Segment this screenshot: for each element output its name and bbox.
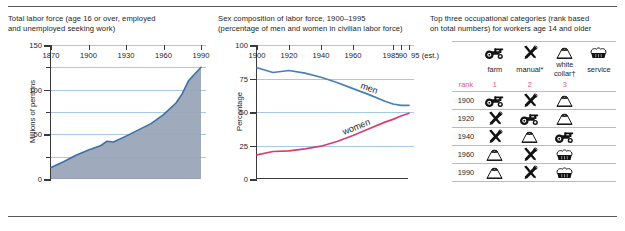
- header-label-manual: manual*: [512, 60, 548, 79]
- cell-1940-rank1: [478, 128, 512, 146]
- row-year-1920: 1920: [452, 110, 478, 128]
- chart-total-labor-force: 150 100 50 0 1870 1900 1930 1: [8, 39, 213, 204]
- blouse-icon: [555, 112, 574, 126]
- header-corner-cell: [452, 42, 478, 61]
- ytick-50: [250, 112, 257, 113]
- panel-title-line1: Top three occupational categories (rank …: [430, 14, 589, 23]
- plot-area-1: 150 100 50 0 1870 1900 1930 1: [50, 45, 200, 179]
- table-row: 1990: [452, 164, 616, 182]
- panel-title-line2: and unemployed seeking work): [8, 24, 115, 33]
- cell-1960-rank2: [512, 146, 548, 164]
- cell-1990-rank3: [548, 164, 582, 182]
- header-label-service: service: [582, 60, 616, 79]
- panel-title-line1: Sex composition of labor force, 1900–199…: [218, 14, 366, 23]
- table-row: 1900: [452, 92, 616, 110]
- cell-1990-empty: [582, 164, 616, 182]
- ylabel-0: 0: [244, 175, 248, 184]
- xtick-1930: [126, 45, 127, 50]
- chef-hat-icon: [555, 167, 574, 179]
- hammer-wrench-icon: [522, 93, 538, 108]
- cell-1960-rank3: [548, 146, 582, 164]
- xlabel-1990: 1990: [193, 51, 210, 60]
- ylabel-0: 0: [38, 175, 42, 184]
- cell-1920-rank2: [512, 110, 548, 128]
- cell-1940-empty: [582, 128, 616, 146]
- blouse-icon: [485, 166, 504, 180]
- blouse-icon: [485, 148, 504, 162]
- xlabel-1900: 1900: [249, 51, 266, 60]
- blouse-icon: [555, 46, 574, 60]
- xtick-1990: [401, 45, 402, 50]
- cell-1960-empty: [582, 146, 616, 164]
- chef-hat-icon: [555, 149, 574, 161]
- xtick-1900: [89, 45, 90, 50]
- tractor-icon: [483, 94, 506, 108]
- header-label-farm: farm: [478, 60, 512, 79]
- chef-hat-icon: [589, 47, 608, 59]
- bottom-rule-cell-4: [582, 182, 616, 183]
- bottom-rule-cell-0: [452, 182, 478, 183]
- ytick-0: [250, 179, 257, 180]
- xtick-1990: [201, 45, 202, 50]
- header-icon-manual: [512, 42, 548, 61]
- table-header-label-row: farm manual* white collar† service: [452, 60, 616, 79]
- panel-title-line1: Total labor force (age 16 or over, emplo…: [8, 14, 156, 23]
- panel-title-total-labor-force: Total labor force (age 16 or over, emplo…: [8, 14, 213, 33]
- series-label-men: men: [359, 81, 379, 96]
- header-icon-white-collar: [548, 42, 582, 61]
- xtick-1940: [321, 45, 322, 50]
- hammer-wrench-icon: [522, 165, 538, 180]
- bottom-rule: [8, 216, 617, 217]
- header-label-corner: [452, 60, 478, 79]
- xlabel-1960: 1960: [345, 51, 362, 60]
- cell-1940-rank3: [548, 128, 582, 146]
- occupational-categories-table: farm manual* white collar† service rank …: [452, 41, 616, 182]
- table-rank-row: rank 1 2 3: [452, 79, 616, 92]
- panel-total-labor-force: Total labor force (age 16 or over, emplo…: [8, 14, 213, 209]
- xlabel-1985: 1985: [383, 51, 400, 60]
- series-total-labor-force: [51, 45, 201, 179]
- cell-1990-rank2: [512, 164, 548, 182]
- bottom-rule-cell-2: [512, 182, 548, 183]
- table-row: 1920: [452, 110, 616, 128]
- top-rule: [8, 6, 617, 7]
- rank-value-2: 2: [512, 79, 548, 92]
- plot-area-2: 100 75 50 25 0 men women: [256, 45, 408, 179]
- hammer-wrench-icon: [522, 45, 538, 60]
- header-icon-farm: [478, 42, 512, 61]
- ytick-100: [250, 45, 257, 46]
- row-year-1960: 1960: [452, 146, 478, 164]
- panel-title-sex-composition: Sex composition of labor force, 1900–199…: [218, 14, 423, 33]
- xtick-1920: [289, 45, 290, 50]
- ylabel-150: 150: [29, 41, 42, 50]
- ytick-25: [250, 146, 257, 147]
- xlabel-1960: 1960: [155, 51, 172, 60]
- hammer-wrench-icon: [487, 111, 503, 126]
- xtick-1985: [393, 45, 394, 50]
- rank-value-3: 3: [548, 79, 582, 92]
- rank-row-label: rank: [452, 79, 478, 92]
- ytick-100: [44, 90, 51, 91]
- table-row: 1940: [452, 128, 616, 146]
- xlabel-1990: 90: [399, 51, 407, 60]
- row-year-1940: 1940: [452, 128, 478, 146]
- ytick-150: [44, 45, 51, 46]
- cell-1900-rank3: [548, 92, 582, 110]
- rank-value-1: 1: [478, 79, 512, 92]
- hammer-wrench-icon: [487, 129, 503, 144]
- cell-1920-rank1: [478, 110, 512, 128]
- xlabel-1940: 1940: [313, 51, 330, 60]
- xtick-1960: [164, 45, 165, 50]
- panel-title-line2: on total numbers) for workers age 14 and…: [430, 24, 591, 33]
- ytick-75: [250, 79, 257, 80]
- panel-title-occupational-categories: Top three occupational categories (rank …: [430, 14, 618, 33]
- xlabel-1870: 1870: [43, 51, 60, 60]
- cell-1920-rank3: [548, 110, 582, 128]
- row-year-1990: 1990: [452, 164, 478, 182]
- xtick-1870: [51, 45, 52, 50]
- ytick-50: [44, 134, 51, 135]
- cell-1900-rank1: [478, 92, 512, 110]
- chart-sex-composition: 100 75 50 25 0 men women: [218, 39, 423, 204]
- xtick-1900: [257, 45, 258, 50]
- header-label-white-collar: white collar†: [548, 60, 582, 79]
